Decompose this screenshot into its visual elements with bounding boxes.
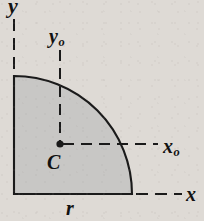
quarter-circle-shape bbox=[14, 76, 132, 194]
quarter-circle-centroid-figure: y yo xo x C r bbox=[0, 0, 204, 221]
figure-canvas bbox=[0, 0, 204, 221]
centroid-point-label: C bbox=[47, 152, 60, 172]
y-centroid-label: yo bbox=[49, 26, 65, 49]
radius-label: r bbox=[66, 198, 74, 218]
x-centroid-label: xo bbox=[163, 136, 180, 159]
x-axis-label: x bbox=[186, 184, 196, 204]
y-centroid-label-base: y bbox=[49, 25, 58, 47]
centroid-dot bbox=[56, 140, 63, 147]
y-centroid-label-subscript: o bbox=[58, 35, 64, 49]
y-axis-label: y bbox=[8, 0, 18, 17]
x-centroid-label-base: x bbox=[163, 135, 173, 157]
x-centroid-label-subscript: o bbox=[174, 145, 180, 159]
